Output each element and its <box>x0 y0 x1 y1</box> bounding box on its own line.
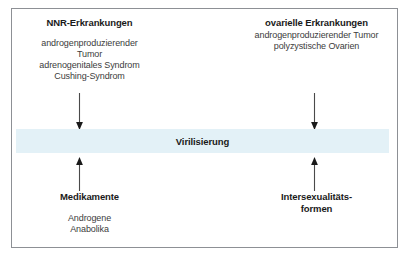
block-medikamente-items: Androgene Anabolika <box>12 213 167 235</box>
block-ovarielle-erkrankungen: ovarielle Erkrankungen androgenproduzier… <box>234 17 399 52</box>
block-intersex-heading: Intersexualitäts- formen <box>234 191 399 214</box>
block-nnr-heading: NNR-Erkrankungen <box>12 17 167 29</box>
virilisierung-label: Virilisierung <box>176 136 229 147</box>
block-nnr-items: androgenproduzierender Tumor adrenogenit… <box>12 38 167 82</box>
arrow-up-icon <box>310 157 319 191</box>
arrow-down-icon <box>75 93 84 131</box>
virilisierung-band: Virilisierung <box>16 129 389 153</box>
block-intersexualitaetsformen: Intersexualitäts- formen <box>234 191 399 214</box>
diagram-frame: NNR-Erkrankungen androgenproduzierender … <box>11 8 398 248</box>
block-medikamente: Medikamente Androgene Anabolika <box>12 191 167 235</box>
arrow-down-icon <box>310 93 319 131</box>
block-medikamente-heading: Medikamente <box>12 191 167 203</box>
block-ovarielle-items: androgenproduzierender Tumor polyzystisc… <box>234 30 399 52</box>
block-nnr-erkrankungen: NNR-Erkrankungen androgenproduzierender … <box>12 17 167 82</box>
arrow-up-icon <box>75 157 84 191</box>
block-ovarielle-heading: ovarielle Erkrankungen <box>234 17 399 29</box>
